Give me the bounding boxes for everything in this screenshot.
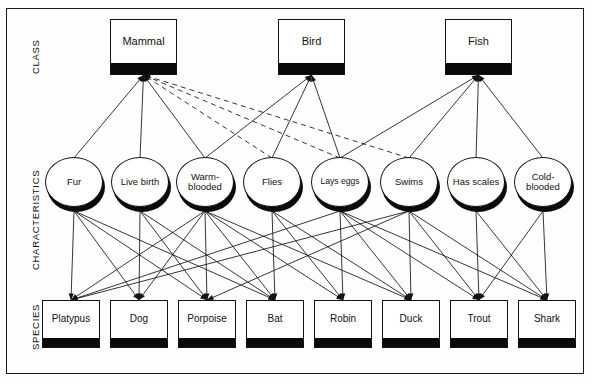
characteristic-node-label: Warm-blooded: [176, 157, 234, 207]
characteristic-node-flies[interactable]: Flies: [243, 157, 301, 207]
class-node-label: Fish: [446, 20, 511, 63]
species-node-label: Platypus: [43, 301, 99, 338]
characteristic-node-live-birth[interactable]: Live birth: [111, 157, 169, 207]
characteristic-node-swims[interactable]: Swims: [380, 157, 438, 207]
class-node-band: [111, 63, 176, 74]
species-node-dog[interactable]: Dog: [110, 300, 168, 348]
species-node-trout[interactable]: Trout: [450, 300, 508, 348]
species-node-band: [111, 338, 167, 347]
row-label-characteristics: CHARACTERISTICS: [30, 170, 41, 270]
species-node-label: Duck: [383, 301, 439, 338]
species-node-label: Robin: [315, 301, 371, 338]
species-node-band: [383, 338, 439, 347]
species-node-band: [451, 338, 507, 347]
species-node-band: [315, 338, 371, 347]
species-node-duck[interactable]: Duck: [382, 300, 440, 348]
characteristic-node-label: Lays eggs: [311, 157, 369, 207]
species-node-band: [247, 338, 303, 347]
class-node-band: [446, 63, 511, 74]
species-node-label: Trout: [451, 301, 507, 338]
species-node-bat[interactable]: Bat: [246, 300, 304, 348]
characteristic-node-cold-blooded[interactable]: Cold-blooded: [514, 157, 572, 207]
characteristic-node-fur[interactable]: Fur: [45, 157, 103, 207]
class-node-label: Bird: [279, 20, 344, 63]
species-node-robin[interactable]: Robin: [314, 300, 372, 348]
species-node-shark[interactable]: Shark: [518, 300, 576, 348]
characteristic-node-label: Cold-blooded: [514, 157, 572, 207]
species-node-band: [519, 338, 575, 347]
species-node-label: Bat: [247, 301, 303, 338]
species-node-label: Shark: [519, 301, 575, 338]
species-node-band: [43, 338, 99, 347]
diagram-canvas: CLASSCHARACTERISTICSSPECIES MammalBirdFi…: [0, 0, 592, 384]
class-node-band: [279, 63, 344, 74]
characteristic-node-label: Fur: [45, 157, 103, 207]
species-node-porpoise[interactable]: Porpoise: [178, 300, 236, 348]
species-node-band: [179, 338, 235, 347]
characteristic-node-label: Live birth: [111, 157, 169, 207]
characteristic-node-label: Swims: [380, 157, 438, 207]
class-node-label: Mammal: [111, 20, 176, 63]
characteristic-node-label: Flies: [243, 157, 301, 207]
row-label-species: SPECIES: [30, 304, 41, 350]
characteristic-node-lays-eggs[interactable]: Lays eggs: [311, 157, 369, 207]
species-node-label: Dog: [111, 301, 167, 338]
characteristic-node-label: Has scales: [447, 157, 505, 207]
species-node-label: Porpoise: [179, 301, 235, 338]
characteristic-node-warm-blooded[interactable]: Warm-blooded: [176, 157, 234, 207]
class-node-mammal[interactable]: Mammal: [110, 19, 177, 75]
row-label-class: CLASS: [30, 39, 41, 74]
class-node-bird[interactable]: Bird: [278, 19, 345, 75]
characteristic-node-has-scales[interactable]: Has scales: [447, 157, 505, 207]
species-node-platypus[interactable]: Platypus: [42, 300, 100, 348]
class-node-fish[interactable]: Fish: [445, 19, 512, 75]
